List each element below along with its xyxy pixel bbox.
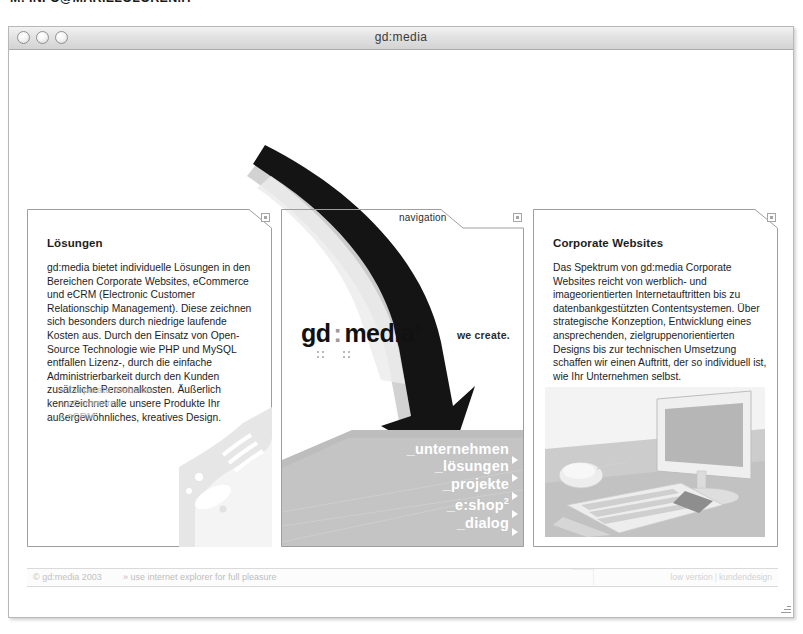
footer-browser-hint[interactable]: » use internet explorer for full pleasur… bbox=[123, 572, 277, 582]
panel-loesungen: Lösungen gd:media bietet individuelle Lö… bbox=[27, 209, 272, 547]
page-footer: © gd:media 2003 » use internet explorer … bbox=[27, 568, 778, 587]
nav-item-dialog[interactable]: _dialog bbox=[407, 515, 509, 533]
main-navigation: _unternehmen _lösungen _projekte _e:shop… bbox=[407, 441, 509, 532]
nav-item-eshop[interactable]: _e:shop2 bbox=[407, 493, 509, 514]
close-box-icon[interactable] bbox=[767, 213, 776, 222]
window-title: gd:media bbox=[9, 30, 793, 44]
nav-item-projekte[interactable]: _projekte bbox=[407, 476, 509, 494]
link-corporate-websites[interactable]: » Corporate Websites bbox=[59, 383, 154, 396]
registered-trademark-icon: ® bbox=[414, 323, 422, 335]
navigation-floor: _unternehmen _lösungen _projekte _e:shop… bbox=[282, 416, 523, 546]
nav-item-loesungen[interactable]: _lösungen bbox=[407, 458, 509, 476]
website-content: Lösungen gd:media bietet individuelle Lö… bbox=[9, 50, 793, 616]
panel-right-body: Das Spektrum von gd:media Corporate Webs… bbox=[553, 261, 767, 383]
photo-graphic bbox=[545, 387, 765, 537]
contact-email: INFO@MARIELOLOREN.IT bbox=[29, 0, 193, 5]
clipped-header-text: M: INFO@MARIELOLOREN.IT bbox=[0, 0, 803, 22]
logo-colon: : bbox=[331, 319, 345, 348]
window-resize-grip[interactable] bbox=[780, 603, 791, 614]
close-box-icon[interactable] bbox=[513, 213, 522, 222]
footer-design-credit[interactable]: kundendesign bbox=[719, 572, 772, 582]
nav-item-unternehmen[interactable]: _unternehmen bbox=[407, 441, 509, 459]
window-titlebar[interactable]: gd:media bbox=[9, 27, 793, 50]
panel-left-links: » Corporate Websites » eCommerce » eCRM bbox=[59, 383, 154, 422]
logo-text-media: media bbox=[344, 319, 414, 347]
panel-right-title: Corporate Websites bbox=[553, 237, 663, 249]
browser-window: gd:media bbox=[8, 26, 794, 618]
link-ecommerce[interactable]: » eCommerce bbox=[59, 396, 154, 409]
footer-notch-shape bbox=[572, 569, 594, 585]
contact-label: M: bbox=[10, 0, 25, 5]
site-tagline: we create. bbox=[457, 329, 510, 341]
panel-corporate-websites: Corporate Websites Das Spektrum von gd:m… bbox=[533, 209, 778, 547]
screenshot-root: M: INFO@MARIELOLOREN.IT gd:media bbox=[0, 0, 803, 634]
footer-version-label[interactable]: low version bbox=[670, 572, 713, 582]
panel-left-title: Lösungen bbox=[47, 237, 103, 249]
logo-dot-pattern bbox=[317, 351, 389, 363]
navigation-tab-label[interactable]: navigation bbox=[399, 212, 447, 223]
desktop-computer-photo bbox=[545, 387, 765, 537]
close-box-icon[interactable] bbox=[261, 213, 270, 222]
footer-version-credit: low version|kundendesign bbox=[670, 572, 772, 582]
panel-navigation: _unternehmen _lösungen _projekte _e:shop… bbox=[281, 209, 524, 547]
page-viewport: Lösungen gd:media bietet individuelle Lö… bbox=[9, 50, 793, 616]
logo-text-gd: gd bbox=[301, 319, 331, 347]
footer-copyright: © gd:media 2003 bbox=[33, 572, 102, 582]
link-ecrm[interactable]: » eCRM bbox=[59, 409, 154, 422]
site-logo: gd:media® bbox=[301, 319, 422, 348]
